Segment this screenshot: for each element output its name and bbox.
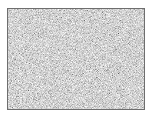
noise-texture-image: gray noise texture <box>7 8 145 110</box>
noise-texture-icon <box>8 9 144 109</box>
